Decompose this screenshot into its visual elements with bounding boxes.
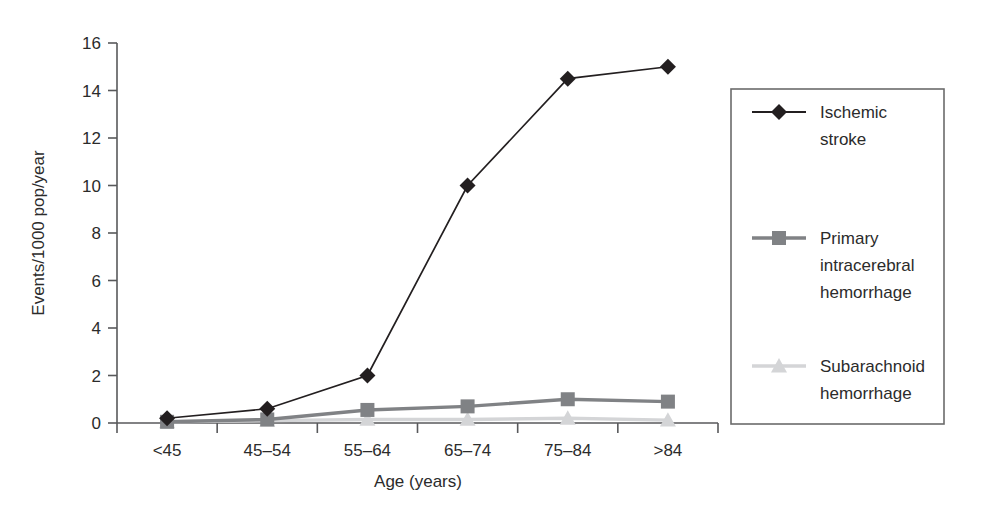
- data-point-marker: [461, 399, 475, 413]
- series-layer: [159, 59, 676, 429]
- legend-label: Primary: [820, 229, 879, 248]
- legend-item-ischemic-stroke[interactable]: Ischemicstroke: [752, 103, 888, 149]
- y-tick-label: 0: [92, 414, 101, 433]
- x-tick-label: <45: [153, 441, 182, 460]
- series-line: [167, 67, 668, 419]
- chart-figure: 0246810121416 <4545–5455–6465–7475–84>84…: [0, 0, 983, 512]
- legend-sample-marker: [772, 231, 786, 245]
- legend-label: hemorrhage: [820, 384, 912, 403]
- y-tick-label: 2: [92, 367, 101, 386]
- data-point-marker: [360, 403, 374, 417]
- x-tick-label: 75–84: [544, 441, 591, 460]
- data-point-marker: [661, 395, 675, 409]
- x-tick-label: 45–54: [244, 441, 291, 460]
- x-tick-label: 55–64: [344, 441, 391, 460]
- x-tick-label: >84: [653, 441, 682, 460]
- y-tick-label: 8: [92, 224, 101, 243]
- y-tick-label: 14: [82, 82, 101, 101]
- data-point-marker: [359, 368, 375, 384]
- legend-label: Ischemic: [820, 103, 888, 122]
- y-tick-label: 4: [92, 319, 101, 338]
- y-axis-title: Events/1000 pop/year: [29, 150, 48, 316]
- legend-item-intracerebral-hemorrhage[interactable]: Primaryintracerebralhemorrhage: [752, 229, 915, 302]
- legend-label: intracerebral: [820, 256, 915, 275]
- legend-label: stroke: [820, 130, 866, 149]
- y-axis-ticks: 0246810121416: [82, 34, 117, 433]
- y-tick-label: 10: [82, 177, 101, 196]
- x-axis-ticks: <4545–5455–6465–7475–84>84: [117, 423, 718, 460]
- y-tick-label: 16: [82, 34, 101, 53]
- x-axis-title: Age (years): [374, 472, 462, 491]
- legend-sample-marker: [771, 104, 787, 120]
- legend-label: hemorrhage: [820, 283, 912, 302]
- legend-layer: IschemicstrokePrimaryintracerebralhemorr…: [752, 103, 925, 403]
- x-tick-label: 65–74: [444, 441, 491, 460]
- data-point-marker: [561, 392, 575, 406]
- data-point-marker: [660, 59, 676, 75]
- y-tick-label: 12: [82, 129, 101, 148]
- legend-label: Subarachnoid: [820, 357, 925, 376]
- line-chart: 0246810121416 <4545–5455–6465–7475–84>84…: [0, 0, 983, 512]
- y-tick-label: 6: [92, 272, 101, 291]
- legend-item-subarachnoid-hemorrhage[interactable]: Subarachnoidhemorrhage: [752, 357, 925, 403]
- series-ischemic-stroke: [159, 59, 676, 427]
